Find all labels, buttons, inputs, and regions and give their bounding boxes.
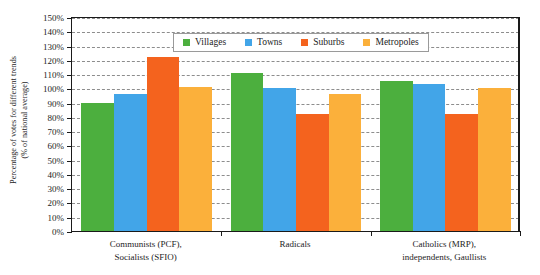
y-axis-tick-label: 20% (48, 198, 65, 208)
legend-swatch-icon (363, 39, 370, 46)
bar-metropoles[interactable] (179, 87, 212, 231)
bar-villages[interactable] (380, 81, 413, 231)
bar-suburbs[interactable] (445, 114, 478, 231)
x-axis-label-line: Communists (PCF), (71, 238, 220, 251)
bar-suburbs[interactable] (296, 114, 329, 231)
x-axis-tick (221, 231, 222, 236)
chart-legend: VillagesTownsSuburbsMetropoles (173, 33, 429, 52)
y-axis-tick-label: 80% (48, 113, 65, 123)
legend-swatch-icon (183, 39, 190, 46)
x-axis-tick (520, 231, 521, 236)
y-axis-tick-label: 130% (43, 42, 64, 52)
legend-swatch-icon (245, 39, 252, 46)
y-axis-tick-label: 140% (43, 27, 64, 37)
y-axis-tick-label: 0% (52, 227, 64, 237)
x-axis-label-line: Catholics (MRP), (370, 238, 519, 251)
legend-item[interactable]: Suburbs (301, 37, 344, 47)
legend-item[interactable]: Villages (183, 37, 226, 47)
x-axis-tick (371, 231, 372, 236)
legend-label: Suburbs (313, 37, 344, 47)
bar-metropoles[interactable] (478, 88, 511, 231)
y-axis-tick-label: 90% (48, 99, 65, 109)
y-axis-title-line-1: Percentage of votes for different trends (8, 56, 19, 184)
legend-label: Towns (257, 37, 282, 47)
y-axis-tick (67, 232, 72, 233)
y-axis-tick-label: 110% (43, 70, 64, 80)
x-axis-label: Catholics (MRP),independents, Gaullists (370, 238, 519, 263)
x-axis-label: Communists (PCF),Socialists (SFIO) (71, 238, 220, 263)
legend-swatch-icon (301, 39, 308, 46)
legend-label: Metropoles (375, 37, 418, 47)
plot-top-border (71, 17, 520, 18)
bar-chart: Percentage of votes for different trends… (0, 0, 540, 275)
x-axis-label: Radicals (220, 238, 369, 251)
y-axis-tick-label: 70% (48, 127, 65, 137)
y-axis-tick-label: 10% (48, 213, 65, 223)
x-axis-label-line: Radicals (220, 238, 369, 251)
legend-item[interactable]: Metropoles (363, 37, 418, 47)
y-axis-tick-label: 100% (43, 84, 64, 94)
bar-metropoles[interactable] (329, 94, 362, 231)
bar-villages[interactable] (231, 73, 264, 231)
bar-villages[interactable] (81, 103, 114, 231)
x-axis-label-line: Socialists (SFIO) (71, 251, 220, 264)
plot-right-border (518, 18, 520, 232)
bar-towns[interactable] (263, 88, 296, 231)
legend-item[interactable]: Towns (245, 37, 282, 47)
y-axis-tick-label: 40% (48, 170, 65, 180)
y-axis-title-line-2: (% of national average) (19, 56, 30, 184)
legend-label: Villages (195, 37, 226, 47)
bar-towns[interactable] (114, 94, 147, 231)
bar-suburbs[interactable] (147, 57, 180, 231)
y-axis-tick-label: 120% (43, 56, 64, 66)
y-axis-tick-label: 50% (48, 156, 65, 166)
y-axis-tick-label: 30% (48, 184, 65, 194)
y-axis-tick-label: 60% (48, 141, 65, 151)
bar-towns[interactable] (413, 84, 446, 231)
x-axis-label-line: independents, Gaullists (370, 251, 519, 264)
y-axis-title: Percentage of votes for different trends… (2, 0, 36, 240)
y-axis-tick-label: 150% (43, 13, 64, 23)
